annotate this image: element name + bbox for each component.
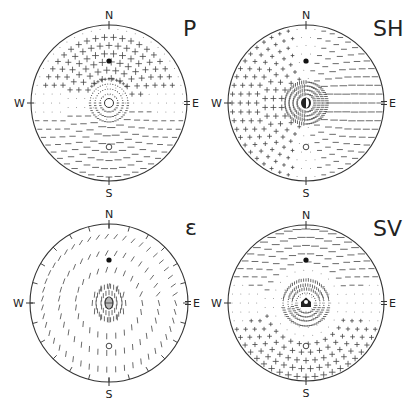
- compass-label-south: S: [303, 187, 310, 200]
- compass-label-north: N: [105, 208, 113, 221]
- panel-p-wave: NSWEP: [14, 9, 199, 200]
- compass-label-east: E: [389, 97, 396, 110]
- panel-sh-wave: NSWESH: [211, 9, 403, 200]
- compass-label-north: N: [302, 209, 310, 222]
- compass-label-east: E: [389, 297, 396, 310]
- anisotropy-stereonet-figure: NSWEP NSWESH NSWEε NSWESV: [0, 0, 408, 410]
- panel-title: P: [183, 16, 196, 41]
- open-dot-icon: [106, 343, 112, 349]
- panel-title: SH: [373, 16, 404, 41]
- center-marker-icon: [301, 298, 311, 308]
- panel-title: SV: [373, 216, 402, 241]
- compass-label-west: W: [14, 97, 25, 110]
- filled-dot-icon: [303, 257, 308, 262]
- panel-title: ε: [185, 215, 197, 240]
- center-marker-icon: [105, 297, 113, 309]
- panel-epsilon: NSWEε: [13, 208, 200, 401]
- filled-dot-icon: [303, 58, 308, 63]
- center-marker-icon: [105, 99, 114, 108]
- compass-label-west: W: [13, 297, 24, 310]
- panel-sv-wave: NSWESV: [211, 209, 402, 400]
- compass-label-south: S: [106, 388, 113, 401]
- compass-label-south: S: [303, 387, 310, 400]
- filled-dot-icon: [106, 257, 111, 262]
- compass-label-south: S: [106, 187, 113, 200]
- open-dot-icon: [303, 343, 309, 349]
- compass-label-east: E: [193, 297, 200, 310]
- open-dot-icon: [106, 144, 112, 150]
- open-dot-icon: [303, 144, 309, 150]
- compass-label-east: E: [192, 97, 199, 110]
- compass-label-north: N: [105, 9, 113, 22]
- compass-label-west: W: [211, 297, 222, 310]
- filled-dot-icon: [106, 58, 111, 63]
- compass-label-west: W: [211, 97, 222, 110]
- compass-label-north: N: [302, 9, 310, 22]
- glyph-field: [35, 29, 184, 178]
